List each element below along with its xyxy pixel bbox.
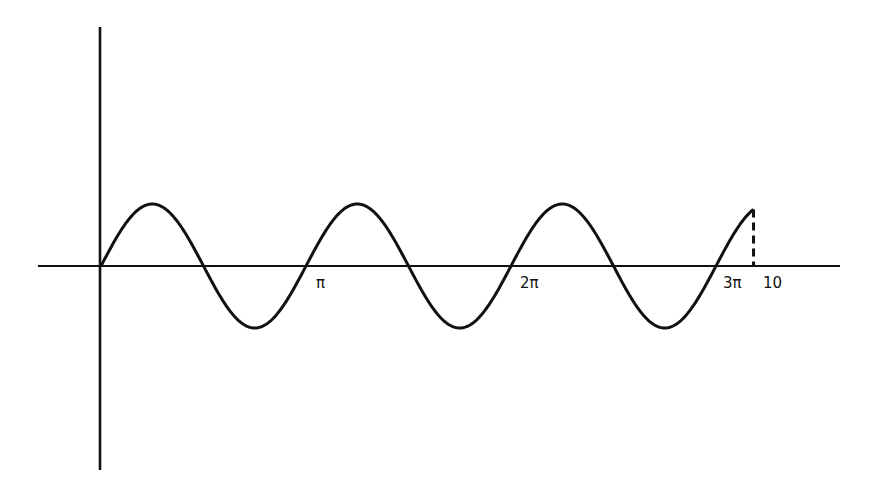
tick-label-pi: π <box>316 274 325 292</box>
tick-label-10: 10 <box>763 274 782 292</box>
tick-label-3pi: 3π <box>723 274 742 292</box>
sine-plot <box>0 0 873 492</box>
tick-label-2pi: 2π <box>520 274 539 292</box>
